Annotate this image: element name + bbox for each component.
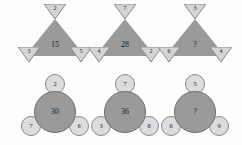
small-triangle-bottom-left: 6 bbox=[158, 47, 180, 62]
small-triangle-bottom-right: 4 bbox=[210, 47, 232, 62]
small-triangle-bottom-left: 3 bbox=[18, 47, 40, 62]
small-triangle-bottom-right-value: 4 bbox=[210, 47, 232, 56]
big-circle-value: 30 bbox=[34, 107, 76, 117]
triangle-group-3: ? 3 6 4 bbox=[158, 2, 232, 64]
circle-group-1: 2 7 6 30 bbox=[18, 74, 92, 140]
triangle-group-1: 15 2 3 5 bbox=[18, 2, 92, 64]
small-triangle-top-value: 3 bbox=[184, 4, 206, 13]
small-triangle-bottom-left-value: 6 bbox=[158, 47, 180, 56]
small-triangle-top-value: 7 bbox=[114, 4, 136, 13]
small-triangle-top: 3 bbox=[184, 4, 206, 19]
triangle-group-2: 28 7 4 2 bbox=[88, 2, 162, 64]
big-circle-value: ? bbox=[174, 107, 216, 117]
small-triangle-bottom-left-value: 4 bbox=[88, 47, 110, 56]
circle-group-3: 5 6 9 ? bbox=[158, 74, 232, 140]
small-triangle-top-value: 2 bbox=[44, 4, 66, 13]
small-triangle-top: 2 bbox=[44, 4, 66, 19]
small-triangle-bottom-left: 4 bbox=[88, 47, 110, 62]
small-triangle-bottom-left-value: 3 bbox=[18, 47, 40, 56]
small-triangle-top: 7 bbox=[114, 4, 136, 19]
big-circle-value: 36 bbox=[104, 107, 146, 117]
puzzle-canvas: 15 2 3 5 28 bbox=[0, 0, 242, 145]
circle-group-2: 7 3 8 36 bbox=[88, 74, 162, 140]
